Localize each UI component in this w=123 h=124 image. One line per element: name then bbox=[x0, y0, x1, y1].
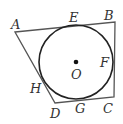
label-c: C bbox=[103, 101, 113, 116]
label-a: A bbox=[10, 17, 20, 32]
geometry-diagram: A B C D O E F G H bbox=[0, 0, 123, 124]
label-f: F bbox=[99, 55, 110, 70]
label-h: H bbox=[29, 81, 42, 96]
center-point-o bbox=[74, 60, 79, 65]
label-g: G bbox=[75, 101, 85, 116]
label-o: O bbox=[71, 67, 82, 82]
label-b: B bbox=[103, 8, 114, 23]
label-d: D bbox=[49, 106, 61, 121]
diagram-canvas: A B C D O E F G H bbox=[0, 0, 123, 124]
label-e: E bbox=[68, 10, 79, 25]
